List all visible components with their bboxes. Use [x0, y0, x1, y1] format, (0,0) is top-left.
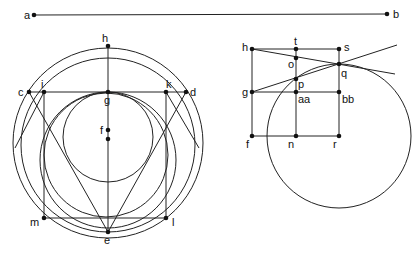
top-point-b — [385, 12, 390, 17]
left-point-f — [106, 128, 111, 133]
right-label-aa: aa — [298, 93, 311, 105]
right-point-s — [337, 47, 342, 52]
left-label-f: f — [100, 124, 104, 136]
right-point-o — [294, 56, 299, 61]
right-label-h: h — [242, 41, 248, 53]
top-label-a: a — [24, 9, 31, 21]
right-point-g — [250, 90, 255, 95]
right-point-h — [250, 47, 255, 52]
left-point-h — [106, 44, 111, 49]
left-point-m — [42, 216, 47, 221]
segment-ab — [34, 14, 387, 15]
left-point-k — [164, 90, 169, 95]
top-label-b: b — [393, 8, 399, 20]
left-label-k: k — [166, 78, 172, 90]
left-segment — [15, 92, 44, 148]
left-label-m: m — [30, 216, 39, 228]
right-point-t — [294, 47, 299, 52]
right-point-q — [337, 62, 342, 67]
right-label-r: r — [333, 138, 337, 150]
left-segment — [29, 92, 108, 232]
left-figure-circles-square-triangle: hcigkdfmle — [13, 32, 203, 246]
left-label-i: i — [41, 78, 43, 90]
right-label-o: o — [288, 58, 294, 70]
right-label-n: n — [288, 138, 294, 150]
right-label-p: p — [298, 78, 304, 90]
top-point-a — [32, 13, 37, 18]
left-point-d — [184, 90, 189, 95]
right-label-q: q — [341, 67, 347, 79]
left-label-d: d — [190, 86, 196, 98]
right-point-r — [337, 134, 342, 139]
right-label-f: f — [246, 138, 250, 150]
left-label-g: g — [104, 94, 110, 106]
top-line-ab: ab — [24, 8, 399, 21]
geometry-diagram: ab hcigkdfmle htsoqpgaabbfnr — [0, 0, 420, 257]
right-point-n — [294, 134, 299, 139]
right-segment — [252, 45, 397, 92]
left-label-c: c — [18, 86, 24, 98]
right-label-s: s — [344, 41, 350, 53]
left-label-l: l — [172, 216, 174, 228]
left-point-unlabeled — [106, 137, 111, 142]
left-label-e: e — [104, 234, 110, 246]
left-label-h: h — [102, 32, 108, 44]
right-label-bb: bb — [342, 93, 354, 105]
right-label-g: g — [242, 86, 248, 98]
right-figure-grid-circle: htsoqpgaabbfnr — [242, 35, 411, 208]
left-point-i — [42, 90, 47, 95]
diagram-svg: ab hcigkdfmle htsoqpgaabbfnr — [0, 0, 420, 257]
right-point-bb — [337, 90, 342, 95]
left-point-c — [27, 90, 32, 95]
left-point-l — [164, 216, 169, 221]
right-point-f — [250, 134, 255, 139]
right-label-t: t — [294, 35, 297, 47]
